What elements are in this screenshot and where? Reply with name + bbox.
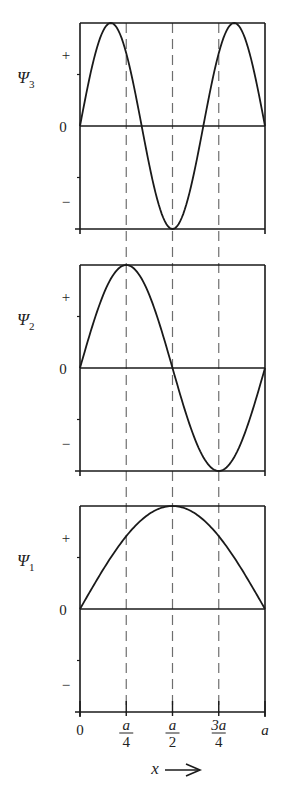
- panel-psi3: +0−Ψ3: [17, 23, 265, 234]
- psi-subscript: 1: [29, 561, 35, 573]
- panel-label: Ψ1: [17, 551, 34, 573]
- psi-subscript: 2: [29, 320, 35, 332]
- x-tick-numerator: a: [169, 717, 177, 733]
- x-tick-numerator: 3a: [210, 717, 226, 733]
- y-tick-minus: −: [62, 677, 70, 693]
- panel-psi2: +0−Ψ2: [17, 265, 265, 476]
- y-tick-minus: −: [62, 436, 70, 452]
- x-tick-denominator: 4: [215, 734, 223, 750]
- y-tick-zero: 0: [59, 602, 67, 618]
- x-tick-label: a: [261, 722, 269, 738]
- x-tick-denominator: 2: [169, 734, 177, 750]
- y-tick-zero: 0: [59, 119, 67, 135]
- panel-label: Ψ2: [17, 310, 34, 332]
- wavefunction-figure: +0−Ψ3+0−Ψ2+0−Ψ1 0a4a23a4ax: [0, 0, 286, 795]
- y-tick-plus: +: [62, 530, 70, 546]
- x-tick-label: 0: [76, 722, 84, 738]
- panel-label: Ψ3: [17, 68, 35, 90]
- panels: +0−Ψ3+0−Ψ2+0−Ψ1: [17, 23, 265, 717]
- y-tick-minus: −: [62, 194, 70, 210]
- x-tick-denominator: 4: [123, 734, 131, 750]
- y-tick-plus: +: [62, 47, 70, 63]
- x-tick-numerator: a: [123, 717, 131, 733]
- y-tick-plus: +: [62, 289, 70, 305]
- x-axis-label: x: [150, 759, 159, 778]
- panel-psi1: +0−Ψ1: [17, 506, 265, 717]
- psi-subscript: 3: [29, 78, 35, 90]
- y-tick-zero: 0: [59, 361, 67, 377]
